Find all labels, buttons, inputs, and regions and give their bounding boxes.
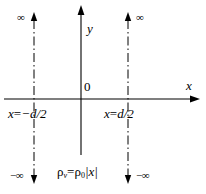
y-axis-label: y [87,22,93,35]
x-axis-label: x [186,79,192,92]
left-boundary-label: x=−d/2 [8,107,47,120]
left-boundary-line [31,12,37,184]
charge-density-diagram: y x 0 ∞ ∞ −∞ −∞ x=−d/2 x=d/2 ρv=ρ0|x| [0,0,206,194]
equation-rhs-expression: |x| [85,164,98,179]
infinity-label-bottom-left: −∞ [10,170,23,181]
x-axis-arrowhead [190,96,200,103]
infinity-label-top-right: ∞ [136,12,143,23]
infinity-label-top-left: ∞ [17,12,24,23]
left-bottom-arrowhead [31,175,37,184]
equation-rhs-symbol: ρ [74,164,81,179]
diagram-canvas [0,0,206,194]
infinity-label-bottom-right: −∞ [136,170,149,181]
right-bottom-arrowhead [125,175,131,184]
y-axis-arrowhead [78,5,85,15]
right-top-arrowhead [125,12,131,21]
right-boundary-value: d/2 [117,106,134,121]
right-boundary-label: x=d/2 [104,107,134,120]
charge-density-equation: ρv=ρ0|x| [57,165,98,178]
left-top-arrowhead [31,12,37,21]
x-axis [4,96,200,103]
left-boundary-value: −d/2 [21,106,46,121]
equation-rhs-subscript: 0 [81,171,85,180]
right-boundary-line [125,12,131,184]
equation-lhs-subscript: v [64,171,68,180]
equation-lhs-symbol: ρ [57,164,64,179]
origin-label: 0 [84,80,91,93]
